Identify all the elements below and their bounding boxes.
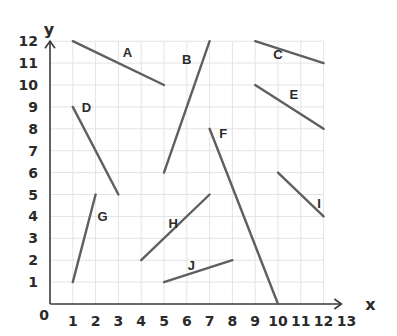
segment-label-j: J [188, 258, 195, 273]
segment-label-d: D [82, 100, 91, 115]
segment-label-c: C [273, 47, 283, 62]
y-tick-label: 10 [19, 77, 39, 93]
x-tick-label: 12 [314, 313, 333, 329]
segment-label-h: H [168, 216, 177, 231]
x-tick-label: 11 [291, 313, 310, 329]
y-tick-label: 7 [28, 143, 38, 159]
segment-label-g: G [97, 209, 107, 224]
origin-label: 0 [39, 307, 49, 323]
segment-label-i: I [317, 196, 321, 211]
x-tick-label: 8 [228, 313, 238, 329]
y-tick-label: 1 [28, 274, 38, 290]
y-axis-label: y [44, 20, 55, 39]
x-tick-label: 6 [182, 313, 192, 329]
y-tick-label: 2 [28, 252, 38, 268]
y-tick-label: 8 [28, 121, 38, 137]
segment-label-e: E [290, 87, 299, 102]
x-tick-label: 9 [250, 313, 260, 329]
x-tick-label: 1 [68, 313, 78, 329]
x-tick-label: 4 [136, 313, 146, 329]
x-tick-label: 5 [159, 313, 169, 329]
y-tick-label: 9 [28, 99, 38, 115]
segment-label-b: B [182, 52, 191, 67]
x-tick-label: 7 [205, 313, 215, 329]
segment-label-a: A [123, 45, 133, 60]
x-axis-label: x [365, 295, 376, 314]
y-tick-label: 4 [28, 208, 38, 224]
x-tick-label: 3 [114, 313, 124, 329]
coordinate-plane-diagram: yx012345678910111213123456789101112 ABCD… [0, 0, 397, 336]
x-tick-label: 13 [337, 313, 356, 329]
x-tick-label: 2 [91, 313, 101, 329]
segment-j [164, 260, 232, 282]
segment-c [255, 41, 323, 63]
y-tick-label: 11 [19, 55, 38, 71]
y-tick-label: 6 [28, 165, 38, 181]
y-tick-label: 5 [28, 187, 38, 203]
segment-label-f: F [219, 126, 227, 141]
y-tick-label: 3 [28, 230, 38, 246]
x-tick-label: 10 [268, 313, 288, 329]
coordinate-grid: yx012345678910111213123456789101112 ABCD… [0, 0, 397, 336]
y-tick-label: 12 [19, 33, 38, 49]
